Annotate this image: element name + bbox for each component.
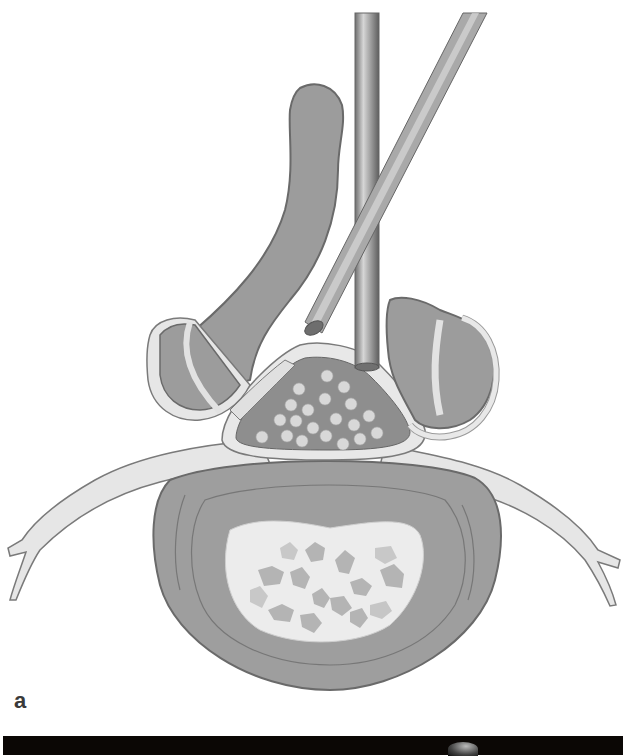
vertebra-illustration bbox=[0, 0, 629, 700]
panel-label: a bbox=[14, 688, 26, 714]
instrument-glint bbox=[448, 742, 478, 756]
next-panel-image-strip bbox=[3, 736, 623, 755]
